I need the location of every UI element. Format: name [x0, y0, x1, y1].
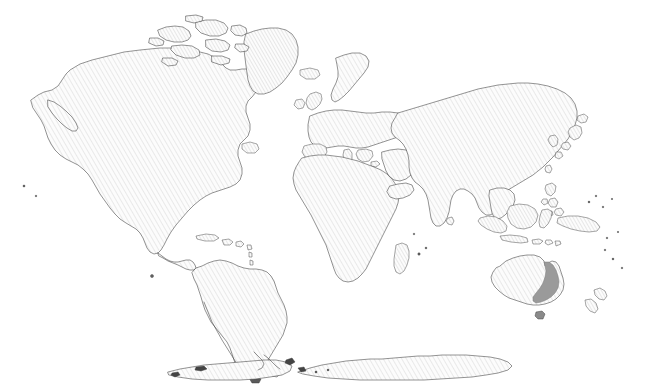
islet-galapagos — [151, 275, 154, 278]
world-map-svg — [0, 0, 650, 391]
landmass-tasmania — [535, 311, 545, 319]
world-map-container — [0, 0, 650, 391]
